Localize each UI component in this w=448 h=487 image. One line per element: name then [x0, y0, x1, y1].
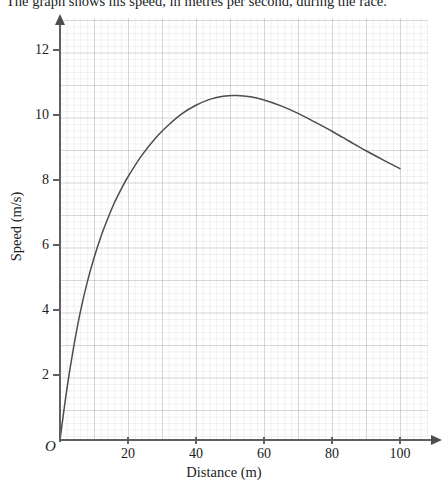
x-axis-arrow-icon — [431, 435, 442, 445]
y-axis-title: Speed (m/s) — [8, 177, 25, 277]
x-tick-label-20: 20 — [108, 447, 148, 461]
y-tick-2 — [53, 374, 61, 376]
y-tick-label-10: 10 — [35, 108, 49, 122]
x-tick-40 — [195, 437, 197, 444]
x-tick-label-100: 100 — [380, 447, 420, 461]
x-tick-label-80: 80 — [312, 447, 352, 461]
y-tick-4 — [53, 309, 61, 311]
x-tick-label-40: 40 — [176, 447, 216, 461]
y-axis-line — [59, 24, 61, 442]
y-tick-8 — [53, 179, 61, 181]
grid-background — [60, 18, 428, 440]
y-tick-6 — [53, 244, 61, 246]
x-tick-60 — [263, 437, 265, 444]
x-axis-title: Distance (m) — [0, 464, 448, 481]
y-tick-label-8: 8 — [42, 173, 49, 187]
x-tick-80 — [331, 437, 333, 444]
x-tick-label-60: 60 — [244, 447, 284, 461]
y-tick-12 — [53, 49, 61, 51]
y-axis-arrow-icon — [55, 14, 65, 25]
x-axis-line — [59, 439, 434, 441]
x-tick-100 — [399, 437, 401, 444]
x-tick-20 — [127, 437, 129, 444]
y-tick-label-6: 6 — [42, 238, 49, 252]
y-tick-10 — [53, 114, 61, 116]
y-tick-label-2: 2 — [42, 368, 49, 382]
y-tick-label-4: 4 — [42, 303, 49, 317]
speed-distance-graph: 24681012 20406080100 O Distance (m) Spee… — [0, 0, 448, 487]
origin-label: O — [45, 438, 56, 455]
y-tick-label-12: 12 — [35, 43, 49, 57]
